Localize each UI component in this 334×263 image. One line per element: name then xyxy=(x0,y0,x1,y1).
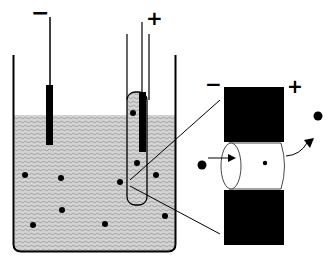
electrolyte-liquid xyxy=(14,115,175,251)
magnified-pore-view xyxy=(198,87,323,245)
particle-in-pore xyxy=(263,161,267,165)
diagram-canvas xyxy=(0,0,334,263)
magnified-positive-label: + xyxy=(287,77,303,96)
particle-exited xyxy=(314,112,323,121)
positive-label: + xyxy=(146,8,163,28)
magnified-negative-label: − xyxy=(205,74,222,94)
lower-electrode-block xyxy=(224,190,284,245)
negative-electrode xyxy=(46,17,53,145)
particle-entering xyxy=(198,161,207,170)
arrow-out-icon xyxy=(304,138,314,148)
negative-label: − xyxy=(31,2,49,24)
upper-electrode-block xyxy=(224,87,284,142)
